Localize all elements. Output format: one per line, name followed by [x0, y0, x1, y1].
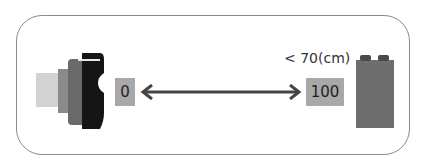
distance-label: < 70(cm) [284, 50, 350, 66]
ultrasonic-sensor-icon [34, 51, 106, 131]
max-value-box: 100 [306, 78, 344, 106]
double-arrow-icon [140, 84, 302, 100]
min-value-box: 0 [115, 78, 135, 106]
max-value-label: 100 [311, 83, 340, 101]
brick-obstacle-icon [356, 55, 394, 128]
min-value-label: 0 [120, 83, 130, 101]
